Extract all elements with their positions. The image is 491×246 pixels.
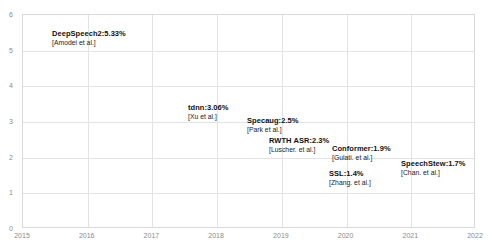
x-tick-label: 2019 xyxy=(273,232,289,239)
gridline-horizontal xyxy=(23,86,474,87)
gridline-horizontal xyxy=(23,51,474,52)
gridline-vertical xyxy=(152,15,153,227)
data-label-value: DeepSpeech2:5.33% xyxy=(52,30,126,39)
data-label-ssl: SSL:1.4% [Zhang. et al.] xyxy=(329,170,371,186)
data-label-citation: [Luscher. et al.] xyxy=(269,146,329,154)
gridline-vertical xyxy=(347,15,348,227)
data-label-value: tdnn:3.06% xyxy=(188,104,229,113)
x-tick-label: 2021 xyxy=(403,232,419,239)
y-tick-label: 0 xyxy=(0,225,13,232)
y-tick-label: 2 xyxy=(0,153,13,160)
plot-area: DeepSpeech2:5.33% [Amodei et al.] tdnn:3… xyxy=(22,14,475,228)
y-tick-label: 3 xyxy=(0,118,13,125)
data-label-citation: [Amodei et al.] xyxy=(52,39,126,47)
data-label-citation: [Zhang. et al.] xyxy=(329,179,371,187)
x-tick-label: 2020 xyxy=(338,232,354,239)
gridline-vertical xyxy=(217,15,218,227)
data-label-conformer: Conformer:1.9% [Gulati. et al.] xyxy=(332,145,391,161)
x-tick-label: 2016 xyxy=(79,232,95,239)
data-label-value: Specaug:2.5% xyxy=(247,117,298,126)
x-tick-label: 2018 xyxy=(208,232,224,239)
y-tick-label: 5 xyxy=(0,46,13,53)
data-label-citation: [Gulati. et al.] xyxy=(332,154,391,162)
y-tick-label: 1 xyxy=(0,189,13,196)
data-label-value: Conformer:1.9% xyxy=(332,145,391,154)
data-label-value: SSL:1.4% xyxy=(329,170,371,179)
y-tick-label: 6 xyxy=(0,11,13,18)
data-label-specaug: Specaug:2.5% [Park et al.] xyxy=(247,117,298,133)
x-tick-label: 2017 xyxy=(144,232,160,239)
gridline-vertical xyxy=(411,15,412,227)
x-tick-label: 2015 xyxy=(14,232,30,239)
data-label-citation: [Chan. et al.] xyxy=(401,169,466,177)
gridline-horizontal xyxy=(23,193,474,194)
data-label-speechstew: SpeechStew:1.7% [Chan. et al.] xyxy=(401,160,466,176)
y-tick-label: 4 xyxy=(0,82,13,89)
x-tick-label: 2022 xyxy=(467,232,483,239)
gridline-vertical xyxy=(88,15,89,227)
data-label-citation: [Park et al.] xyxy=(247,126,298,134)
wer-progress-chart: 0 1 2 3 4 5 6 2015 2016 2017 2018 2019 2… xyxy=(0,0,491,246)
data-label-value: SpeechStew:1.7% xyxy=(401,160,466,169)
data-label-rwth-asr: RWTH ASR:2.3% [Luscher. et al.] xyxy=(269,137,329,153)
data-label-value: RWTH ASR:2.3% xyxy=(269,137,329,146)
data-label-tdnn: tdnn:3.06% [Xu et al.] xyxy=(188,104,229,120)
data-label-deepspeech2: DeepSpeech2:5.33% [Amodei et al.] xyxy=(52,30,126,46)
data-label-citation: [Xu et al.] xyxy=(188,113,229,121)
